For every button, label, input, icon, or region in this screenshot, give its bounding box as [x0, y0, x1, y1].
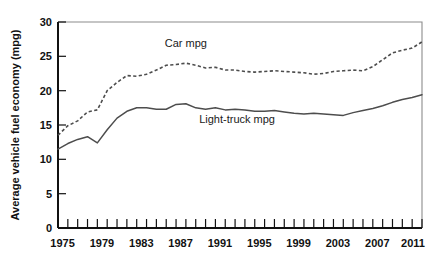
x-tick-label-2011: 2011: [401, 237, 425, 249]
y-tick-label-20: 20: [40, 85, 52, 97]
x-tick-label-1991: 1991: [208, 237, 232, 249]
x-tick-label-1995: 1995: [247, 237, 271, 249]
x-tick-label-1999: 1999: [286, 237, 310, 249]
y-tick-label-10: 10: [40, 153, 52, 165]
y-tick-label-15: 15: [40, 119, 52, 131]
y-tick-label-25: 25: [40, 50, 52, 62]
series-annotation-light-truck-mpg: Light-truck mpg: [199, 113, 275, 125]
x-tick-label-1979: 1979: [90, 237, 114, 249]
y-tick-label-5: 5: [46, 188, 52, 200]
series-annotation-car-mpg: Car mpg: [165, 37, 207, 49]
y-tick-label-30: 30: [40, 16, 52, 28]
fuel-economy-chart-figure: Average vehicle fuel economy (mpg) 0 5 1…: [0, 0, 436, 255]
y-axis-title: Average vehicle fuel economy (mpg): [9, 29, 21, 220]
x-tick-label-1987: 1987: [168, 237, 192, 249]
y-tick-label-0: 0: [46, 222, 52, 234]
x-tick-label-2007: 2007: [365, 237, 389, 249]
x-tick-label-1975: 1975: [50, 237, 74, 249]
chart-canvas: Average vehicle fuel economy (mpg) 0 5 1…: [0, 0, 436, 255]
x-tick-label-2003: 2003: [326, 237, 350, 249]
x-tick-label-1983: 1983: [129, 237, 153, 249]
figure-background: [0, 0, 436, 255]
